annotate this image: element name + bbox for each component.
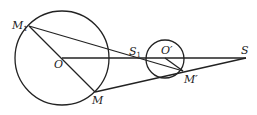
diagram-canvas: M1 O S1 O′ S M M′: [0, 0, 257, 115]
label-s: S: [241, 44, 249, 57]
line-m-to-s: [95, 58, 246, 92]
label-m1: M1: [11, 19, 28, 33]
label-m-prime: M′: [183, 73, 198, 86]
geometry-figure: M1 O S1 O′ S M M′: [0, 0, 257, 115]
label-s1: S1: [129, 45, 141, 59]
label-o: O: [54, 58, 63, 71]
label-o-prime: O′: [161, 44, 173, 57]
radius-o-prime-to-m-prime: [165, 58, 183, 71]
label-m: M: [91, 94, 104, 107]
